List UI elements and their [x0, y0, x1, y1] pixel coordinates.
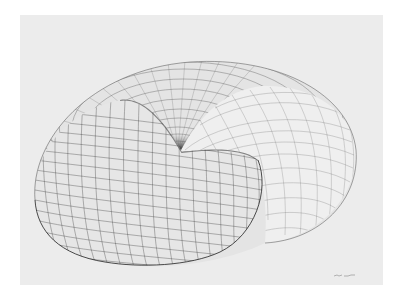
artist-signature: [334, 275, 355, 276]
torus-drawing: [0, 0, 404, 304]
